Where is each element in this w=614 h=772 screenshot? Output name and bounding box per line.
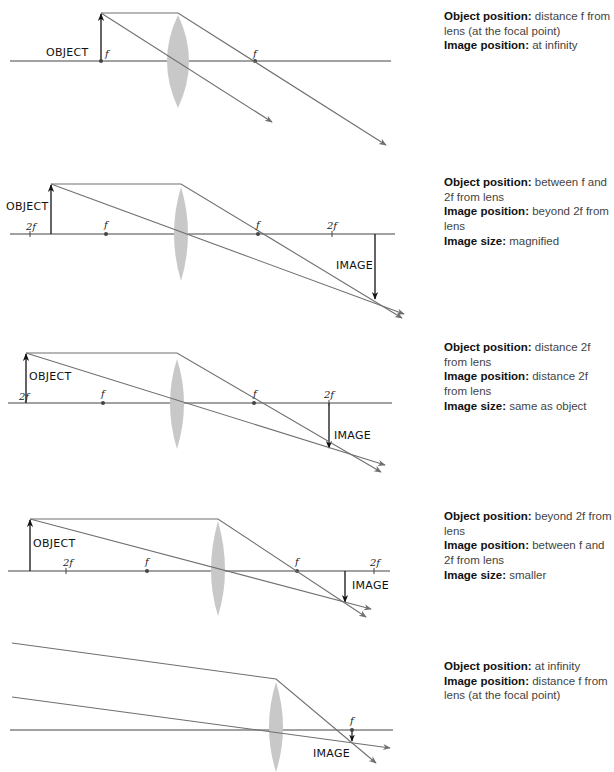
focal-point-right <box>256 232 260 236</box>
focal-point-right <box>252 401 256 405</box>
case-1-description: Object position: distance f from lens (a… <box>444 9 614 53</box>
image-label: IMAGE <box>334 429 371 442</box>
parallel-ray <box>51 184 402 318</box>
label-f-right: f <box>255 219 262 230</box>
label-2f-left: 2f <box>25 221 38 232</box>
case-3-diagram: OBJECT IMAGE 2f f f 2f <box>8 353 392 472</box>
case-4-description: Object position: beyond 2f from lens Ima… <box>444 509 614 583</box>
upper-parallel-ray <box>12 643 376 763</box>
label-2f-right: 2f <box>323 389 336 400</box>
image-size-value: smaller <box>509 569 546 581</box>
image-label: IMAGE <box>336 259 373 272</box>
lower-parallel-ray <box>12 697 390 748</box>
lens <box>170 359 184 449</box>
case-5-description: Object position: at infinity Image posit… <box>444 659 614 703</box>
image-size-value: same as object <box>509 400 586 412</box>
image-size-label: Image size <box>444 569 502 581</box>
image-label: IMAGE <box>352 579 389 592</box>
label-f-right: f <box>294 556 301 567</box>
object-position-value: at infinity <box>535 660 580 672</box>
image-position-label: Image position <box>444 39 525 51</box>
focal-point-left <box>101 401 105 405</box>
image-position-value: at infinity <box>532 39 577 51</box>
center-ray <box>101 13 272 122</box>
focal-label-right: f <box>252 48 259 59</box>
object-label: OBJECT <box>33 537 76 550</box>
object-position-label: Object position <box>444 10 528 22</box>
label-f-left: f <box>144 556 151 567</box>
image-size-label: Image size <box>444 235 502 247</box>
parallel-ray <box>101 13 386 145</box>
label-f-left: f <box>103 219 110 230</box>
focal-label-left: f <box>104 48 111 59</box>
image-size-value: magnified <box>509 235 559 247</box>
object-position-label: Object position <box>444 660 528 672</box>
parallel-ray <box>26 353 381 472</box>
case-1-diagram: OBJECT f f <box>10 13 391 145</box>
case-2-diagram: OBJECT IMAGE 2f f f 2f <box>6 184 404 318</box>
image-position-label: Image position <box>444 370 525 382</box>
object-position-label: Object position <box>444 341 528 353</box>
focal-label: f <box>349 715 356 726</box>
lens <box>269 682 283 772</box>
focal-point <box>350 728 354 732</box>
focal-point-left <box>104 232 108 236</box>
object-label: OBJECT <box>46 46 89 59</box>
label-2f-left: 2f <box>62 557 75 568</box>
label-f-left: f <box>100 388 107 399</box>
label-f-right: f <box>252 388 259 399</box>
case-3-description: Object position: distance 2f from lens I… <box>444 340 614 414</box>
object-position-label: Object position <box>444 176 528 188</box>
center-ray <box>51 184 404 314</box>
image-label: IMAGE <box>313 747 350 760</box>
case-5-diagram: IMAGE f <box>10 643 393 772</box>
focal-point-left <box>99 59 103 63</box>
case-4-diagram: OBJECT IMAGE 2f f f 2f <box>8 519 390 617</box>
image-position-label: Image position <box>444 205 525 217</box>
image-position-label: Image position <box>444 539 525 551</box>
image-size-label: Image size <box>444 400 502 412</box>
label-2f-left: 2f <box>18 391 31 402</box>
parallel-ray <box>30 519 366 617</box>
label-2f-right: 2f <box>326 220 339 231</box>
label-2f-right: 2f <box>369 557 382 568</box>
object-position-label: Object position <box>444 510 528 522</box>
object-label: OBJECT <box>29 370 72 383</box>
center-ray <box>30 519 371 609</box>
focal-point-left <box>145 569 149 573</box>
image-position-label: Image position <box>444 675 525 687</box>
object-label: OBJECT <box>6 200 49 213</box>
case-2-description: Object position: between f and 2f from l… <box>444 175 614 249</box>
